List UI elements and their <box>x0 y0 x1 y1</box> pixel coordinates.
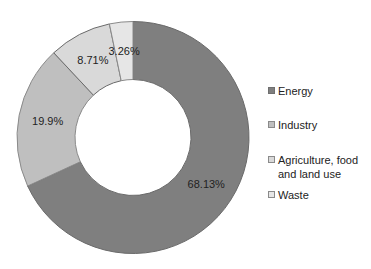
legend-marker-waste <box>268 191 275 198</box>
legend-item-agriculture: Agriculture, food and land use <box>268 153 358 181</box>
slice-label-energy: 68.13% <box>188 178 226 190</box>
legend-label-industry: Industry <box>278 118 317 132</box>
legend-marker-energy <box>268 87 275 94</box>
legend-label-energy: Energy <box>278 84 313 98</box>
legend-label-agriculture-line2: and land use <box>278 167 358 181</box>
legend-item-energy: Energy <box>268 84 313 98</box>
legend-item-industry: Industry <box>268 118 317 132</box>
legend-label-waste: Waste <box>278 188 309 202</box>
legend-item-waste: Waste <box>268 188 309 202</box>
donut-chart: 68.13%19.9%8.71%3.26% <box>0 0 371 269</box>
legend-label-agriculture: Agriculture, food and land use <box>278 153 358 181</box>
legend-marker-agriculture <box>268 156 275 163</box>
legend-marker-industry <box>268 121 275 128</box>
legend-label-agriculture-line1: Agriculture, food <box>278 153 358 167</box>
slice-label-industry: 19.9% <box>32 115 63 127</box>
slice-label-agriculture: 8.71% <box>77 54 108 66</box>
slice-label-waste: 3.26% <box>109 45 140 57</box>
